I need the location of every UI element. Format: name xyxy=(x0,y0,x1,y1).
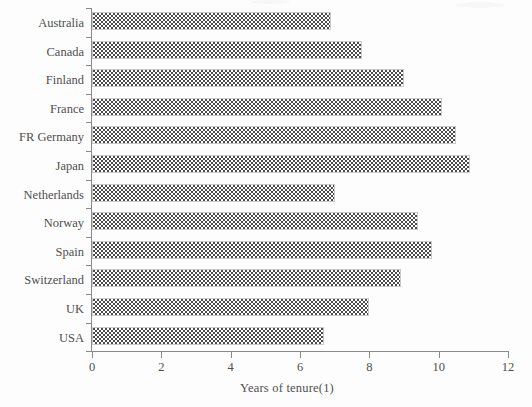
bar-row xyxy=(92,323,508,352)
bar-row xyxy=(92,65,508,94)
category-label-fr-germany: FR Germany xyxy=(0,130,84,144)
bar-row xyxy=(92,37,508,66)
bar-usa xyxy=(92,327,324,345)
bar-row xyxy=(92,265,508,294)
x-tick-label-6: 6 xyxy=(280,360,320,375)
bar-france xyxy=(92,98,442,116)
category-label-uk: UK xyxy=(0,302,84,316)
bar-spain xyxy=(92,241,432,259)
bar-fr-germany xyxy=(92,126,456,144)
bar-australia xyxy=(92,12,331,30)
x-tick-label-4: 4 xyxy=(211,360,251,375)
x-tick-label-2: 2 xyxy=(141,360,181,375)
bar-finland xyxy=(92,69,404,87)
x-tick xyxy=(231,352,232,358)
bar-row xyxy=(92,208,508,237)
category-label-finland: Finland xyxy=(0,73,84,87)
bar-row xyxy=(92,94,508,123)
category-label-switzerland: Switzerland xyxy=(0,273,84,287)
x-tick-label-12: 12 xyxy=(488,360,528,375)
bar-row xyxy=(92,180,508,209)
category-label-canada: Canada xyxy=(0,45,84,59)
bar-netherlands xyxy=(92,184,335,202)
x-tick xyxy=(300,352,301,358)
bar-switzerland xyxy=(92,269,401,287)
x-tick xyxy=(161,352,162,358)
category-label-netherlands: Netherlands xyxy=(0,188,84,202)
x-tick xyxy=(439,352,440,358)
category-label-norway: Norway xyxy=(0,216,84,230)
bar-canada xyxy=(92,41,362,59)
category-label-australia: Australia xyxy=(0,16,84,30)
x-tick xyxy=(369,352,370,358)
bar-chart: AustraliaCanadaFinlandFranceFR GermanyJa… xyxy=(0,0,532,407)
x-axis-title: Years of tenure(1) xyxy=(0,381,532,396)
bar-japan xyxy=(92,155,470,173)
bar-uk xyxy=(92,298,369,316)
category-label-france: France xyxy=(0,102,84,116)
x-tick xyxy=(508,352,509,358)
category-label-usa: USA xyxy=(0,331,84,345)
category-label-spain: Spain xyxy=(0,245,84,259)
bar-norway xyxy=(92,212,418,230)
bar-row xyxy=(92,8,508,37)
scan-artifact xyxy=(250,0,290,4)
x-tick-label-8: 8 xyxy=(349,360,389,375)
bar-row xyxy=(92,151,508,180)
bar-row xyxy=(92,122,508,151)
bar-row xyxy=(92,237,508,266)
x-tick xyxy=(92,352,93,358)
category-label-japan: Japan xyxy=(0,159,84,173)
x-tick-label-0: 0 xyxy=(72,360,112,375)
plot-area xyxy=(92,8,508,351)
bar-row xyxy=(92,294,508,323)
x-tick-label-10: 10 xyxy=(419,360,459,375)
